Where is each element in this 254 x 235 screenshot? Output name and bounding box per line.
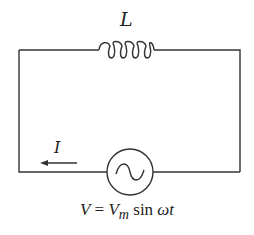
eq-vm-sub: m xyxy=(119,206,129,222)
circuit-diagram: L I V = Vm sin ωt xyxy=(0,0,254,235)
inductor-label: L xyxy=(120,8,133,30)
inductor-icon xyxy=(99,42,154,59)
wire-left-bottom xyxy=(19,50,107,172)
current-label: I xyxy=(54,138,60,157)
eq-vm: V xyxy=(108,200,118,219)
eq-func: sin xyxy=(133,200,153,219)
eq-lhs: V xyxy=(80,200,90,219)
voltage-equation: V = Vm sin ωt xyxy=(0,200,254,223)
wire-top-right xyxy=(154,50,240,172)
eq-arg: ωt xyxy=(157,200,174,219)
sine-wave-icon xyxy=(116,164,144,180)
eq-equals: = xyxy=(95,200,105,219)
